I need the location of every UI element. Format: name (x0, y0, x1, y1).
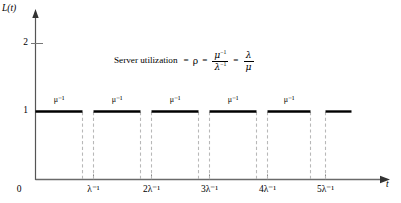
segment-label: μ⁻¹ (228, 96, 239, 104)
fraction-mu-over-lambda: μ−1 λ−1 (212, 50, 228, 72)
x-axis-caption: t (386, 180, 389, 190)
x-tick-label-1: λ⁻¹ (87, 185, 99, 195)
fraction-numerator: μ−1 (212, 50, 228, 61)
y-axis-caption: L(t) (2, 4, 16, 14)
x-tick-label-5: 5λ⁻¹ (317, 185, 334, 195)
segment-label: μ⁻¹ (54, 96, 65, 104)
x-tick-label-3: 3λ⁻¹ (201, 185, 218, 195)
dashed-guides-group (83, 112, 326, 179)
x-tick-label-4: 4λ⁻¹ (259, 185, 276, 195)
segment-label: μ⁻¹ (112, 96, 123, 104)
y-tick-label-2: 2 (14, 38, 28, 48)
fraction-denominator: λ−1 (212, 62, 228, 73)
annotation-equals-2: = (202, 56, 207, 65)
x-tick-label-0: 0 (17, 185, 22, 195)
annotation-equals-1: = (184, 56, 189, 65)
fraction-denominator: μ (244, 62, 254, 73)
server-utilization-annotation: Server utilization = ρ = μ−1 λ−1 = λ μ (114, 50, 256, 72)
exponent: −1 (220, 49, 226, 55)
x-tick-label-2: 2λ⁻¹ (143, 185, 160, 195)
annotation-text: Server utilization (114, 56, 178, 65)
y-axis-arrowhead (32, 9, 38, 18)
segment-label: μ⁻¹ (284, 96, 295, 104)
annotation-equals-3: = (233, 56, 238, 65)
exponent: −1 (220, 61, 226, 67)
y-tick-label-1: 1 (14, 106, 28, 116)
fraction-numerator: λ (244, 50, 254, 61)
figure-container: L(t) t 2 1 0 λ⁻¹ 2λ⁻¹ 3λ⁻¹ 4λ⁻¹ 5λ⁻¹ μ⁻¹… (0, 0, 401, 203)
annotation-rho: ρ (193, 56, 198, 65)
axes-group (31, 9, 390, 183)
segment-label: μ⁻¹ (170, 96, 181, 104)
fraction-lambda-over-mu: λ μ (244, 50, 254, 72)
